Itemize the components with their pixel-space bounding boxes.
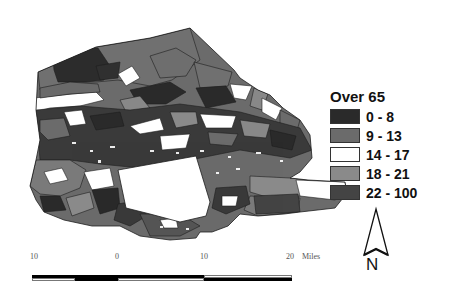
legend-label: 18 - 21 <box>366 166 410 182</box>
legend-label: 22 - 100 <box>366 185 417 201</box>
legend-item: 14 - 17 <box>330 145 450 164</box>
scale-bar: 10 0 10 20 Miles <box>30 252 330 282</box>
legend-swatch <box>330 185 360 200</box>
scale-segment <box>204 275 292 281</box>
region-layer <box>20 20 360 250</box>
scale-tick-label: 20 <box>286 252 294 261</box>
legend-item: 9 - 13 <box>330 126 450 145</box>
scale-segment <box>75 275 118 281</box>
scale-segment <box>32 275 75 281</box>
legend-item: 18 - 21 <box>330 164 450 183</box>
legend-swatch <box>330 166 360 181</box>
scale-segment <box>118 275 204 281</box>
legend-swatch <box>330 147 360 162</box>
legend: Over 65 0 - 8 9 - 13 14 - 17 18 - 21 22 … <box>330 88 450 202</box>
legend-label: 14 - 17 <box>366 147 410 163</box>
legend-label: 9 - 13 <box>366 128 402 144</box>
legend-swatch <box>330 128 360 143</box>
scale-tick-label: 0 <box>115 252 119 261</box>
legend-title: Over 65 <box>330 88 450 105</box>
legend-label: 0 - 8 <box>366 109 394 125</box>
scale-unit-label: Miles <box>302 252 320 261</box>
north-label: N <box>366 255 378 275</box>
scale-tick-label: 10 <box>200 252 208 261</box>
legend-item: 22 - 100 <box>330 183 450 202</box>
scale-tick-label: 10 <box>30 252 38 261</box>
legend-swatch <box>330 109 360 124</box>
legend-item: 0 - 8 <box>330 107 450 126</box>
